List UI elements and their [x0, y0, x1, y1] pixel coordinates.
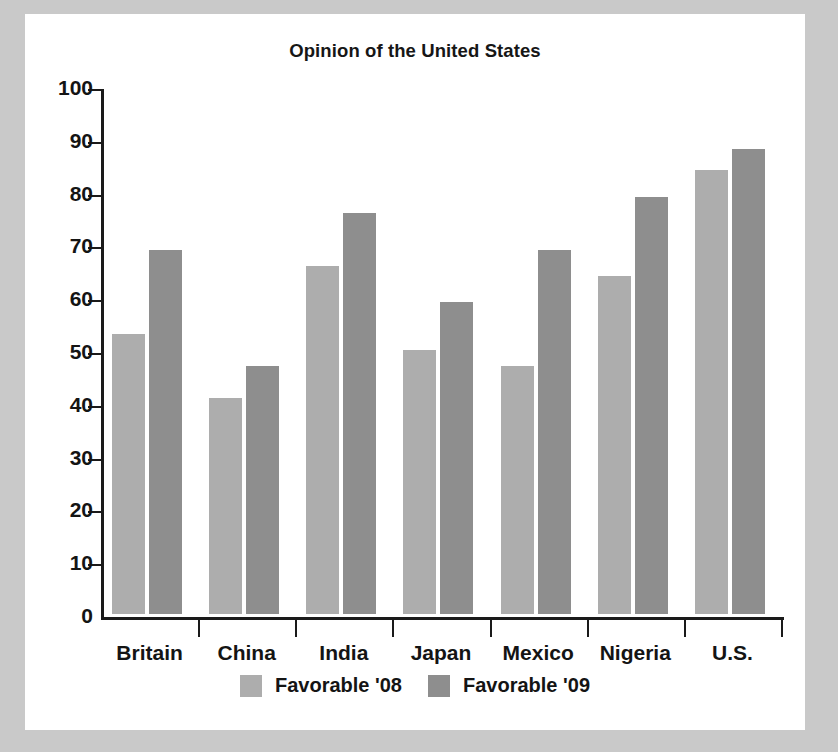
legend-swatch-icon — [240, 675, 262, 697]
chart-legend: Favorable '08Favorable '09 — [25, 674, 805, 697]
y-axis-tick-label: 100 — [58, 77, 93, 99]
bar — [732, 149, 765, 614]
x-axis-category-label: China — [198, 641, 295, 665]
page-title: Opinion of the United States — [25, 40, 805, 62]
bar — [112, 334, 145, 614]
x-axis-category-label: Nigeria — [587, 641, 684, 665]
x-axis-category-label: Japan — [392, 641, 489, 665]
plot-area: 0102030405060708090100 BritainChinaIndia… — [101, 89, 781, 617]
y-axis-tick-label: 0 — [81, 605, 93, 627]
y-axis-tick-label: 90 — [70, 130, 93, 152]
legend-item[interactable]: Favorable '08 — [240, 674, 402, 697]
y-axis-tick-label: 10 — [70, 552, 93, 574]
legend-swatch-icon — [428, 675, 450, 697]
category-divider-tick — [490, 620, 492, 637]
bar-group — [587, 86, 684, 614]
y-axis-tick-label: 30 — [70, 447, 93, 469]
x-axis-category-label: India — [295, 641, 392, 665]
category-divider-tick — [198, 620, 200, 637]
category-divider-tick — [295, 620, 297, 637]
y-axis-tick-label: 40 — [70, 394, 93, 416]
chart-card: Opinion of the United States 01020304050… — [25, 14, 805, 730]
x-axis-category-label: U.S. — [684, 641, 781, 665]
bar — [306, 266, 339, 614]
y-axis-tick-label: 70 — [70, 235, 93, 257]
legend-item[interactable]: Favorable '09 — [428, 674, 590, 697]
bar — [440, 302, 473, 614]
legend-label: Favorable '08 — [275, 674, 402, 697]
bar — [501, 366, 534, 614]
bar — [695, 170, 728, 614]
category-divider-tick — [587, 620, 589, 637]
bar — [209, 398, 242, 614]
bar — [538, 250, 571, 614]
category-divider-tick — [392, 620, 394, 637]
bar — [598, 276, 631, 614]
bar-group — [392, 86, 489, 614]
y-axis-tick-label: 50 — [70, 341, 93, 363]
bar — [343, 213, 376, 614]
y-axis-tick-label: 60 — [70, 288, 93, 310]
x-axis-line — [101, 617, 784, 620]
category-divider-tick — [684, 620, 686, 637]
x-axis-category-label: Mexico — [490, 641, 587, 665]
bar — [635, 197, 668, 614]
category-divider-tick — [781, 620, 783, 637]
bar-group — [684, 86, 781, 614]
y-axis-tick-label: 20 — [70, 499, 93, 521]
chart-page: Opinion of the United States 01020304050… — [0, 0, 838, 752]
bar-group — [101, 86, 198, 614]
bar — [403, 350, 436, 614]
bar-group — [490, 86, 587, 614]
y-axis-tick-label: 80 — [70, 183, 93, 205]
bar-group — [295, 86, 392, 614]
bar — [246, 366, 279, 614]
legend-label: Favorable '09 — [463, 674, 590, 697]
bar — [149, 250, 182, 614]
bar-group — [198, 86, 295, 614]
x-axis-category-label: Britain — [101, 641, 198, 665]
